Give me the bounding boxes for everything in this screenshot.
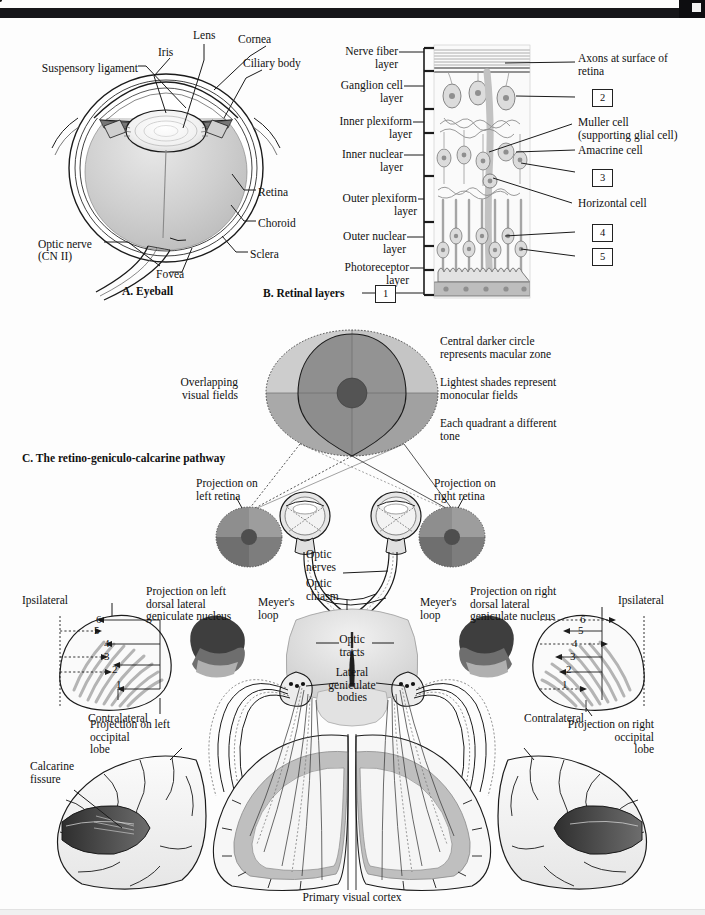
eyeball-illustration [52,74,280,300]
right-lgn-annotations [540,616,644,712]
label-muller-cell: Muller cell (supporting glial cell) [578,116,678,141]
retina-layer-column [424,45,530,298]
label-optic-nerves: Optic nerves [306,548,336,573]
label-lateral-geniculate-bodies: Lateral geniculate bodies [312,666,392,704]
right-lgn-layer-4: 4 [572,637,578,650]
label-nerve-fiber-layer: Nerve fiber layer [332,45,398,70]
panel-a-title: A. Eyeball [122,285,173,298]
left-lgn-3d-render [190,615,245,677]
right-lgn-layer-1: 1 [562,678,568,691]
top-right-corner-inner [692,3,701,12]
label-choroid: Choroid [258,217,296,230]
retina-number-box-5: 5 [592,248,613,266]
label-photoreceptor-layer: Photoreceptor layer [332,261,409,286]
label-projection-left-lgn: Projection on left dorsal lateral genicu… [146,585,231,623]
label-projection-left-occipital: Projection on left occipital lobe [90,718,170,756]
retina-number-box-3: 3 [592,169,613,187]
figure-page: Suspensory ligament Iris Lens Cornea Cil… [0,0,705,915]
label-outer-nuclear-layer: Outer nuclear layer [332,230,406,255]
label-optic-chiasm: Optic chiasm [306,577,339,602]
label-projection-left-retina: Projection on left retina [196,477,258,502]
panel-b-title: B. Retinal layers [263,287,344,300]
label-iris: Iris [158,46,173,59]
note-monocular-fields: Lightest shades represent monocular fiel… [440,376,556,401]
retina-number-box-1: 1 [375,285,396,303]
label-cornea: Cornea [238,33,271,46]
label-lens: Lens [193,29,215,42]
right-lgn-layer-3: 3 [570,650,576,663]
label-fovea: Fovea [156,268,184,281]
left-lgn-layer-1: 1 [116,678,122,691]
label-meyers-loop-right: Meyer's loop [420,596,457,621]
label-ganglion-cell-layer: Ganglion cell layer [332,79,403,104]
label-optic-tracts: Optic tracts [320,633,384,658]
label-projection-right-lgn: Projection on right dorsal lateral genic… [470,585,556,623]
left-lgn-annotations [60,616,160,706]
label-optic-nerve-cn2: (CN II) [38,250,72,263]
top-dark-band [0,8,705,18]
top-right-corner-block [679,0,705,18]
left-eye-small [280,492,330,555]
left-lgn-layer-5: 5 [94,624,100,637]
label-inner-plexiform-layer: Inner plexiform layer [332,115,412,140]
left-lgn-layer-2: 2 [112,663,118,676]
label-sclera: Sclera [250,248,279,261]
left-occipital-lobe [58,756,207,889]
left-lgn-layer-4: 4 [104,637,110,650]
bottom-separator-band [0,909,705,915]
label-horizontal-cell: Horizontal cell [578,197,647,210]
right-lgn-layer-diagram [533,615,644,710]
primary-visual-cortex-coronal [213,686,490,891]
label-projection-right-retina: Projection on right retina [434,477,496,502]
right-lgn-3d-render [459,615,514,677]
label-optic-nerve: Optic nerve [38,238,92,251]
right-lgn-layer-2: 2 [566,663,572,676]
visual-field-diagram [266,330,438,456]
panel-c-leaders [74,497,602,828]
label-projection-right-occipital: Projection on right occipital lobe [498,718,654,756]
retina-number-box-2: 2 [592,89,613,107]
panel-b-right-leaders [489,62,575,256]
label-inner-nuclear-layer: Inner nuclear layer [332,148,403,173]
label-axons-at-surface: Axons at surface of retina [578,52,668,77]
label-overlapping-visual-fields: Overlapping visual fields [128,376,238,401]
left-lgn-layer-3: 3 [104,650,110,663]
label-ciliary-body: Ciliary body [243,57,301,70]
label-ipsilateral-right: Ipsilateral [618,594,664,607]
note-macular-zone: Central darker circle represents macular… [440,335,551,360]
right-occipital-lobe [498,756,647,889]
note-quadrant-tone: Each quadrant a different tone [440,417,556,442]
label-amacrine-cell: Amacrine cell [578,144,643,157]
label-retina: Retina [258,186,288,199]
panel-c-title: C. The retino-geniculo-calcarine pathway [22,452,225,465]
right-lgn-layer-5: 5 [578,624,584,637]
left-retina-projection-disc [216,507,284,567]
label-calcarine-fissure: Calcarine fissure [30,760,74,785]
right-retina-projection-disc [417,507,485,567]
label-meyers-loop-left: Meyer's loop [258,596,295,621]
label-ipsilateral-left: Ipsilateral [22,594,68,607]
retina-number-box-4: 4 [592,224,613,242]
label-primary-visual-cortex: Primary visual cortex [272,891,432,904]
right-eye-small [371,492,421,555]
field-to-eye-projection-lines [246,444,455,513]
label-outer-plexiform-layer: Outer plexiform layer [332,192,417,217]
label-suspensory-ligament: Suspensory ligament [6,62,138,75]
